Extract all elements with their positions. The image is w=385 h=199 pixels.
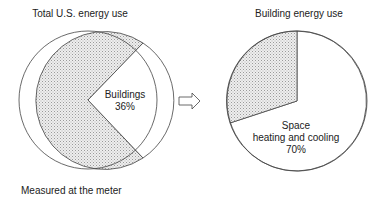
left-pie <box>19 31 174 170</box>
space-label: Space <box>253 120 340 132</box>
right-arrow-icon <box>179 93 200 109</box>
left-chart-title: Total U.S. energy use <box>32 8 128 19</box>
left-slice-label: Buildings 36% <box>105 89 146 113</box>
right-chart-title: Building energy use <box>255 8 343 19</box>
buildings-label: Buildings <box>105 89 146 101</box>
caption: Measured at the meter <box>21 185 122 196</box>
heating-cooling-label: heating and cooling <box>253 132 340 144</box>
right-slice-label: Space heating and cooling 70% <box>253 120 340 156</box>
heating-cooling-value: 70% <box>253 144 340 156</box>
buildings-value: 36% <box>105 101 146 113</box>
chart-graphics <box>0 0 385 199</box>
